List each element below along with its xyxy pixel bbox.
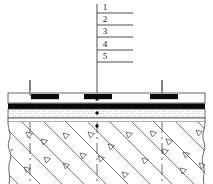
dot-granular [95,111,98,114]
layer-subgrade-soil [0,122,213,184]
diagram-canvas: 1 2 3 4 5 [0,0,213,184]
granular-base-fill [8,109,205,118]
dot-subgrade [95,124,98,127]
subbase-rect [8,118,205,122]
callout-label-2: 2 [99,15,111,24]
callout-label-4: 4 [99,40,111,49]
embedded-block-right [150,94,178,99]
layer-subbase [8,118,205,122]
callout-label-3: 3 [99,27,111,36]
black-course-rect [8,104,205,110]
dot-surface [95,97,98,100]
soil-background [0,122,213,184]
embedded-blocks-group [31,94,178,99]
callout-label-1: 1 [99,3,111,12]
layer-black-course [8,104,205,110]
embedded-block-left [31,94,59,99]
layer-granular-base [8,109,205,118]
callout-label-5: 5 [99,52,111,61]
soil-hatch-group [0,122,213,184]
